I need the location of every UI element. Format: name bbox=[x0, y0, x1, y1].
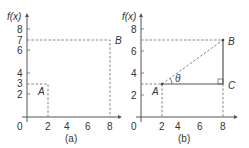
point-a-marker bbox=[161, 83, 164, 86]
panel-a: f(x) 8 7 6 4 3 2 0 2 4 6 8 A B (a) bbox=[7, 11, 122, 144]
angle-theta-label: θ bbox=[175, 73, 181, 84]
x-tick-label: 6 bbox=[197, 121, 203, 132]
segment-ab bbox=[162, 40, 223, 84]
y-axis-label: f(x) bbox=[7, 11, 21, 22]
y-tick-label: 6 bbox=[17, 45, 23, 56]
origin-label: 0 bbox=[131, 121, 137, 132]
right-angle-marker bbox=[218, 79, 223, 84]
x-tick-label: 2 bbox=[45, 121, 51, 132]
point-b-label: B bbox=[115, 35, 122, 46]
point-a-label: A bbox=[37, 86, 45, 97]
y-tick-label: 4 bbox=[131, 68, 137, 79]
y-axis-label: f(x) bbox=[122, 11, 136, 22]
x-tick-label: 8 bbox=[220, 121, 226, 132]
x-tick-label: 6 bbox=[85, 121, 91, 132]
origin-label: 0 bbox=[17, 121, 23, 132]
y-tick-label: 2 bbox=[17, 89, 23, 100]
point-c-label: C bbox=[228, 80, 236, 91]
point-b-label: B bbox=[228, 36, 235, 47]
point-a-label: A bbox=[151, 86, 159, 97]
point-b-guides bbox=[27, 40, 110, 117]
x-tick-label: 4 bbox=[175, 121, 181, 132]
panel-b: f(x) 8 6 4 2 0 2 4 6 8 θ A B bbox=[122, 11, 236, 144]
point-b-marker bbox=[222, 39, 225, 42]
diagram-canvas: f(x) 8 7 6 4 3 2 0 2 4 6 8 A B (a) f(x) bbox=[0, 0, 249, 148]
y-tick-label: 8 bbox=[17, 24, 23, 35]
panel-caption: (a) bbox=[65, 133, 77, 144]
y-tick-label: 8 bbox=[131, 24, 137, 35]
y-tick-label: 2 bbox=[131, 90, 137, 101]
angle-arc bbox=[170, 78, 172, 84]
x-tick-label: 2 bbox=[159, 121, 165, 132]
panel-caption: (b) bbox=[178, 133, 190, 144]
y-tick-label: 6 bbox=[131, 46, 137, 57]
y-tick-label: 3 bbox=[17, 78, 23, 89]
x-tick-label: 8 bbox=[107, 121, 113, 132]
x-tick-label: 4 bbox=[64, 121, 70, 132]
